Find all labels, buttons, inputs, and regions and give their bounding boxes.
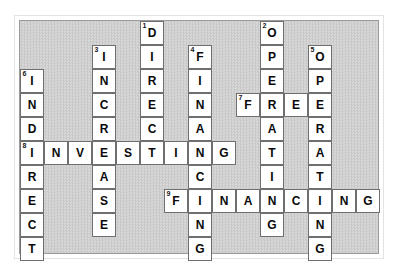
- crossword-cell[interactable]: T: [20, 237, 44, 261]
- crossword-cell[interactable]: A: [236, 189, 260, 213]
- cell-letter: N: [100, 75, 109, 87]
- cell-letter: D: [28, 123, 37, 135]
- crossword-cell[interactable]: N: [308, 213, 332, 237]
- cell-letter: R: [316, 123, 325, 135]
- crossword-cell[interactable]: C: [284, 189, 308, 213]
- crossword-cell[interactable]: P: [260, 45, 284, 69]
- cell-letter: A: [268, 123, 277, 135]
- cell-letter: N: [52, 147, 61, 159]
- crossword-cell[interactable]: 8I: [20, 141, 44, 165]
- crossword-cell[interactable]: N: [188, 93, 212, 117]
- crossword-cell[interactable]: R: [20, 165, 44, 189]
- crossword-cell[interactable]: 1D: [140, 21, 164, 45]
- crossword-cell[interactable]: A: [92, 165, 116, 189]
- cell-letter: N: [196, 99, 205, 111]
- cell-letter: C: [100, 99, 109, 111]
- crossword-cell[interactable]: I: [308, 189, 332, 213]
- crossword-cell[interactable]: T: [308, 165, 332, 189]
- crossword-cell[interactable]: A: [188, 117, 212, 141]
- crossword-cell[interactable]: N: [332, 189, 356, 213]
- crossword-cell[interactable]: E: [92, 141, 116, 165]
- crossword-cell[interactable]: G: [260, 213, 284, 237]
- cell-letter: R: [148, 75, 157, 87]
- cell-letter: N: [196, 219, 205, 231]
- cell-letter: F: [172, 195, 179, 207]
- cell-clue-number: 1: [143, 22, 147, 30]
- crossword-cell[interactable]: N: [44, 141, 68, 165]
- crossword-cell[interactable]: S: [116, 141, 140, 165]
- crossword-cell[interactable]: E: [260, 69, 284, 93]
- crossword-cell[interactable]: G: [212, 141, 236, 165]
- crossword-cell[interactable]: C: [140, 117, 164, 141]
- cell-letter: D: [148, 27, 157, 39]
- cell-letter: O: [315, 51, 324, 63]
- cell-letter: O: [267, 27, 276, 39]
- crossword-cell[interactable]: 3I: [92, 45, 116, 69]
- crossword-cell[interactable]: R: [92, 117, 116, 141]
- crossword-cell[interactable]: T: [260, 141, 284, 165]
- crossword-cell[interactable]: C: [20, 213, 44, 237]
- crossword-cell[interactable]: N: [188, 213, 212, 237]
- cell-letter: N: [220, 195, 229, 207]
- cell-letter: I: [198, 195, 201, 207]
- crossword-cell[interactable]: N: [92, 69, 116, 93]
- crossword-cell[interactable]: N: [212, 189, 236, 213]
- cell-letter: A: [244, 195, 253, 207]
- cell-letter: R: [28, 171, 37, 183]
- cell-letter: G: [195, 243, 204, 255]
- crossword-cell[interactable]: N: [260, 189, 284, 213]
- crossword-cell[interactable]: I: [140, 45, 164, 69]
- crossword-cell[interactable]: G: [188, 237, 212, 261]
- crossword-cell[interactable]: E: [92, 213, 116, 237]
- cell-letter: I: [30, 147, 33, 159]
- crossword-cell[interactable]: I: [260, 165, 284, 189]
- cell-letter: R: [268, 99, 277, 111]
- crossword-cell[interactable]: A: [260, 117, 284, 141]
- crossword-cell[interactable]: 7F: [236, 93, 260, 117]
- crossword-cell[interactable]: T: [140, 141, 164, 165]
- cell-letter: E: [316, 99, 324, 111]
- crossword-cell[interactable]: 4F: [188, 45, 212, 69]
- cell-letter: G: [315, 243, 324, 255]
- crossword-cell[interactable]: R: [308, 117, 332, 141]
- cell-letter: E: [292, 99, 300, 111]
- crossword-cell[interactable]: A: [308, 141, 332, 165]
- crossword-cell[interactable]: R: [260, 93, 284, 117]
- crossword-cell[interactable]: E: [20, 189, 44, 213]
- cell-clue-number: 8: [23, 142, 27, 150]
- crossword-cell[interactable]: I: [188, 189, 212, 213]
- crossword-cell[interactable]: 5O: [308, 45, 332, 69]
- crossword-cell[interactable]: I: [164, 141, 188, 165]
- cell-letter: A: [316, 147, 325, 159]
- crossword-cell[interactable]: R: [140, 69, 164, 93]
- crossword-cell[interactable]: 6I: [20, 69, 44, 93]
- crossword-cell[interactable]: E: [140, 93, 164, 117]
- cell-letter: I: [318, 195, 321, 207]
- cell-letter: T: [316, 171, 323, 183]
- crossword-cell[interactable]: E: [308, 93, 332, 117]
- crossword-cell[interactable]: D: [20, 117, 44, 141]
- crossword-cell[interactable]: V: [68, 141, 92, 165]
- cell-letter: I: [102, 51, 105, 63]
- cell-letter: T: [268, 147, 275, 159]
- crossword-cell[interactable]: N: [188, 141, 212, 165]
- crossword-cell[interactable]: C: [188, 165, 212, 189]
- cell-letter: G: [267, 219, 276, 231]
- crossword-cell[interactable]: I: [188, 69, 212, 93]
- cell-letter: E: [100, 219, 108, 231]
- cell-letter: E: [268, 75, 276, 87]
- cell-letter: N: [340, 195, 349, 207]
- crossword-cell[interactable]: S: [92, 189, 116, 213]
- crossword-cell[interactable]: C: [92, 93, 116, 117]
- cell-letter: N: [196, 147, 205, 159]
- crossword-cell[interactable]: G: [308, 237, 332, 261]
- cell-letter: A: [196, 123, 205, 135]
- crossword-cell[interactable]: E: [284, 93, 308, 117]
- crossword-cell[interactable]: G: [356, 189, 380, 213]
- crossword-cell[interactable]: N: [20, 93, 44, 117]
- crossword-cell[interactable]: 2O: [260, 21, 284, 45]
- cell-letter: E: [28, 195, 36, 207]
- crossword-cell[interactable]: 9F: [164, 189, 188, 213]
- cell-letter: P: [316, 75, 324, 87]
- crossword-cell[interactable]: P: [308, 69, 332, 93]
